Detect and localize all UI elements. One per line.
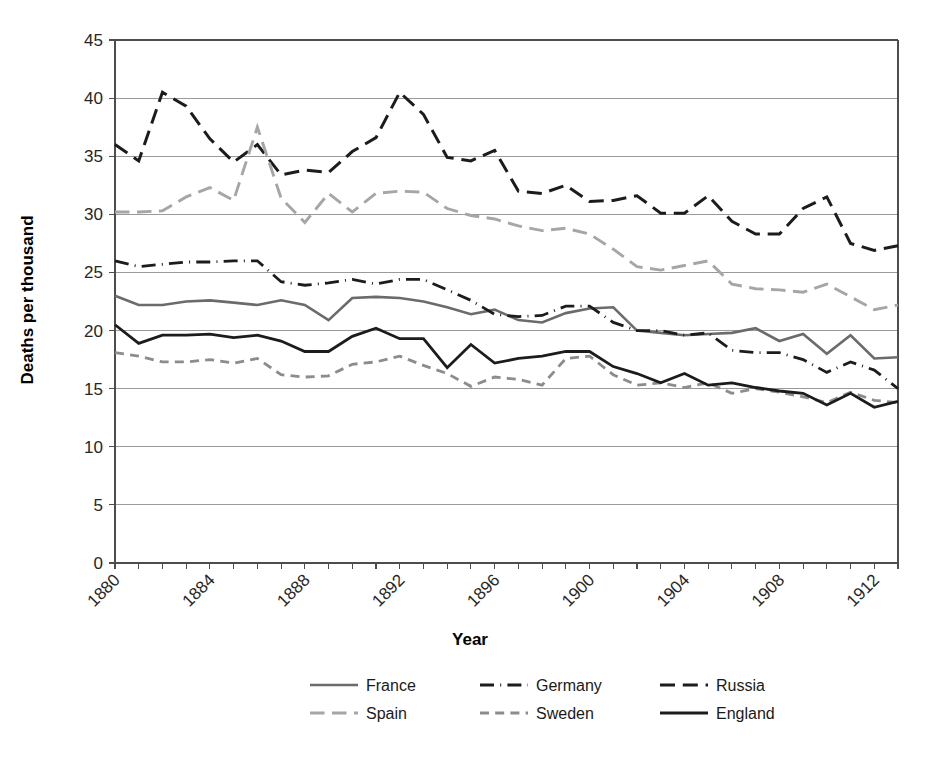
x-tick-label: 1888 (273, 570, 313, 610)
series-line-spain (115, 127, 898, 309)
x-tick-label: 1904 (653, 570, 693, 610)
chart-legend: FranceGermanyRussiaSpainSwedenEngland (310, 677, 775, 722)
y-tick-label: 25 (84, 263, 103, 282)
y-tick-label: 45 (84, 31, 103, 50)
y-tick-label: 35 (84, 147, 103, 166)
legend-label-england: England (716, 705, 775, 722)
y-tick-label: 40 (84, 89, 103, 108)
line-chart: 051015202530354045 188018841888189218961… (0, 0, 934, 770)
x-tick-label: 1908 (748, 570, 788, 610)
x-tick-label: 1880 (84, 570, 124, 610)
x-axis-ticks: 188018841888189218961900190419081912 (84, 563, 898, 611)
legend-label-russia: Russia (716, 677, 765, 694)
legend-label-germany: Germany (536, 677, 602, 694)
series-lines (115, 92, 898, 407)
x-tick-label: 1884 (179, 570, 219, 610)
x-tick-label: 1900 (558, 570, 598, 610)
y-axis-ticks: 051015202530354045 (84, 31, 115, 573)
x-tick-label: 1896 (463, 570, 503, 610)
plot-gridlines (115, 40, 898, 505)
x-tick-label: 1892 (368, 570, 408, 610)
series-line-germany (115, 261, 898, 389)
legend-label-spain: Spain (366, 705, 407, 722)
x-axis-title: Year (452, 630, 488, 649)
chart-container: 051015202530354045 188018841888189218961… (0, 0, 934, 770)
y-axis-title: Deaths per thousand (18, 215, 37, 384)
y-tick-label: 10 (84, 438, 103, 457)
y-tick-label: 20 (84, 322, 103, 341)
series-line-france (115, 296, 898, 359)
y-tick-label: 5 (94, 496, 103, 515)
legend-label-sweden: Sweden (536, 705, 594, 722)
y-tick-label: 30 (84, 205, 103, 224)
legend-label-france: France (366, 677, 416, 694)
x-tick-label: 1912 (843, 570, 883, 610)
series-line-russia (115, 92, 898, 250)
y-tick-label: 0 (94, 554, 103, 573)
series-line-england (115, 325, 898, 408)
y-tick-label: 15 (84, 380, 103, 399)
